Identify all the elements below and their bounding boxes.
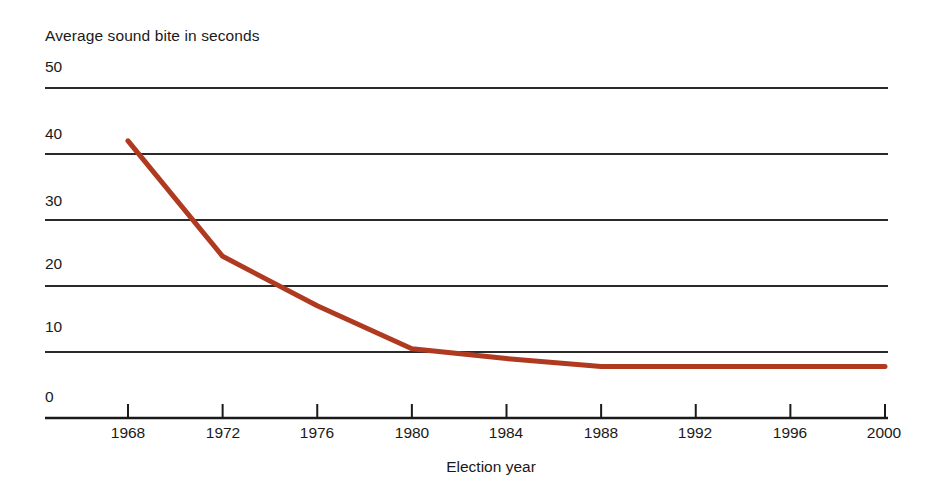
plot-area bbox=[0, 0, 952, 500]
x-axis-group bbox=[45, 404, 888, 418]
gridlines-group bbox=[45, 88, 888, 352]
data-line-group bbox=[128, 141, 885, 367]
series-line-0 bbox=[128, 141, 885, 367]
chart-figure: Average sound bite in seconds 50 40 30 2… bbox=[0, 0, 952, 500]
